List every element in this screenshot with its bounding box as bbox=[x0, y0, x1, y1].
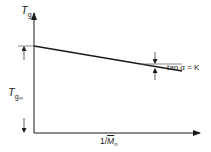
intercept-label-main: T bbox=[8, 86, 15, 98]
y-axis-label: Tg bbox=[21, 5, 32, 16]
intercept-label-sub-wrap: g∞ bbox=[15, 93, 23, 100]
diagram-canvas bbox=[0, 0, 211, 152]
tg-vs-inverse-mn-line bbox=[34, 46, 182, 71]
slope-annotation: tan α = K bbox=[167, 64, 199, 72]
x-axis-label-sub: n bbox=[114, 141, 117, 147]
y-axis-label-sub: g bbox=[28, 11, 32, 18]
y-axis-label-main: T bbox=[21, 4, 28, 16]
x-axis-label: 1/Mn bbox=[100, 137, 118, 146]
intercept-label: Tg∞ bbox=[8, 87, 23, 98]
intercept-label-subsub: ∞ bbox=[19, 95, 23, 101]
